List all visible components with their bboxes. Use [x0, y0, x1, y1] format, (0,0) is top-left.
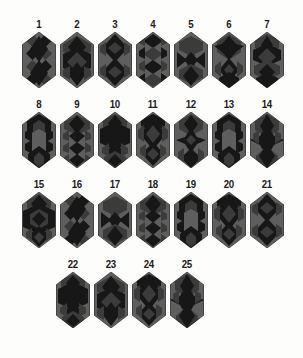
- hexagon-tile: [174, 112, 208, 168]
- hexagon-tile: [136, 112, 170, 168]
- hexagon-tile: [60, 192, 94, 248]
- tile-cell: 16: [58, 178, 96, 248]
- tile-label: 8: [36, 98, 41, 111]
- hexagon-tile: [170, 272, 204, 328]
- hexagon-tile: [250, 32, 284, 88]
- tile-label: 18: [148, 178, 158, 191]
- tile-pattern-plate: 1234567 891011121314 15161718192021 2223…: [0, 0, 303, 358]
- tile-cell: 14: [248, 98, 286, 168]
- tile-label: 4: [150, 18, 155, 31]
- tile-row: 22232425: [0, 258, 303, 328]
- hexagon-tile: [212, 32, 246, 88]
- hexagon-tile: [136, 192, 170, 248]
- tile-label: 3: [112, 18, 117, 31]
- tile-label: 20: [224, 178, 234, 191]
- tile-label: 21: [262, 178, 272, 191]
- tile-cell: 15: [20, 178, 58, 248]
- tile-cell: 11: [134, 98, 172, 168]
- hexagon-tile: [174, 192, 208, 248]
- tile-cell: 20: [210, 178, 248, 248]
- tile-cell: 19: [172, 178, 210, 248]
- tile-label: 17: [110, 178, 120, 191]
- hexagon-tile: [60, 112, 94, 168]
- hexagon-tile: [22, 192, 56, 248]
- tile-label: 12: [186, 98, 196, 111]
- tile-cell: 22: [54, 258, 92, 328]
- tile-label: 9: [74, 98, 79, 111]
- hexagon-tile: [98, 192, 132, 248]
- hexagon-tile: [98, 32, 132, 88]
- tile-label: 23: [106, 258, 116, 271]
- tile-cell: 5: [172, 18, 210, 88]
- tile-label: 11: [148, 98, 158, 111]
- tile-label: 24: [144, 258, 154, 271]
- tile-label: 22: [68, 258, 78, 271]
- tile-cell: 4: [134, 18, 172, 88]
- hexagon-tile: [250, 112, 284, 168]
- tile-cell: 9: [58, 98, 96, 168]
- tile-label: 5: [188, 18, 193, 31]
- tile-cell: 2: [58, 18, 96, 88]
- hexagon-tile: [56, 272, 90, 328]
- tile-cell: 23: [92, 258, 130, 328]
- tile-cell: 1: [20, 18, 58, 88]
- hexagon-tile: [136, 32, 170, 88]
- tile-label: 10: [110, 98, 120, 111]
- tile-cell: 3: [96, 18, 134, 88]
- hexagon-tile: [98, 112, 132, 168]
- tile-label: 2: [74, 18, 79, 31]
- tile-label: 7: [264, 18, 269, 31]
- tile-row: 891011121314: [0, 98, 303, 168]
- tile-cell: 12: [172, 98, 210, 168]
- tile-cell: 24: [130, 258, 168, 328]
- hexagon-tile: [212, 192, 246, 248]
- hexagon-tile: [94, 272, 128, 328]
- tile-cell: 18: [134, 178, 172, 248]
- tile-label: 16: [72, 178, 82, 191]
- hexagon-tile: [132, 272, 166, 328]
- tile-cell: 8: [20, 98, 58, 168]
- tile-label: 15: [34, 178, 44, 191]
- tile-cell: 17: [96, 178, 134, 248]
- tile-cell: 7: [248, 18, 286, 88]
- hexagon-tile: [22, 112, 56, 168]
- tile-cell: 13: [210, 98, 248, 168]
- tile-label: 1: [36, 18, 41, 31]
- hexagon-tile: [212, 112, 246, 168]
- tile-label: 6: [226, 18, 231, 31]
- hexagon-tile: [60, 32, 94, 88]
- tile-cell: 10: [96, 98, 134, 168]
- tile-label: 25: [182, 258, 192, 271]
- tile-row: 15161718192021: [0, 178, 303, 248]
- tile-cell: 25: [168, 258, 206, 328]
- hexagon-tile: [250, 192, 284, 248]
- hexagon-tile: [22, 32, 56, 88]
- tile-row: 1234567: [0, 18, 303, 88]
- tile-label: 19: [186, 178, 196, 191]
- hexagon-tile: [174, 32, 208, 88]
- tile-label: 13: [224, 98, 234, 111]
- tile-cell: 6: [210, 18, 248, 88]
- tile-label: 14: [262, 98, 272, 111]
- tile-cell: 21: [248, 178, 286, 248]
